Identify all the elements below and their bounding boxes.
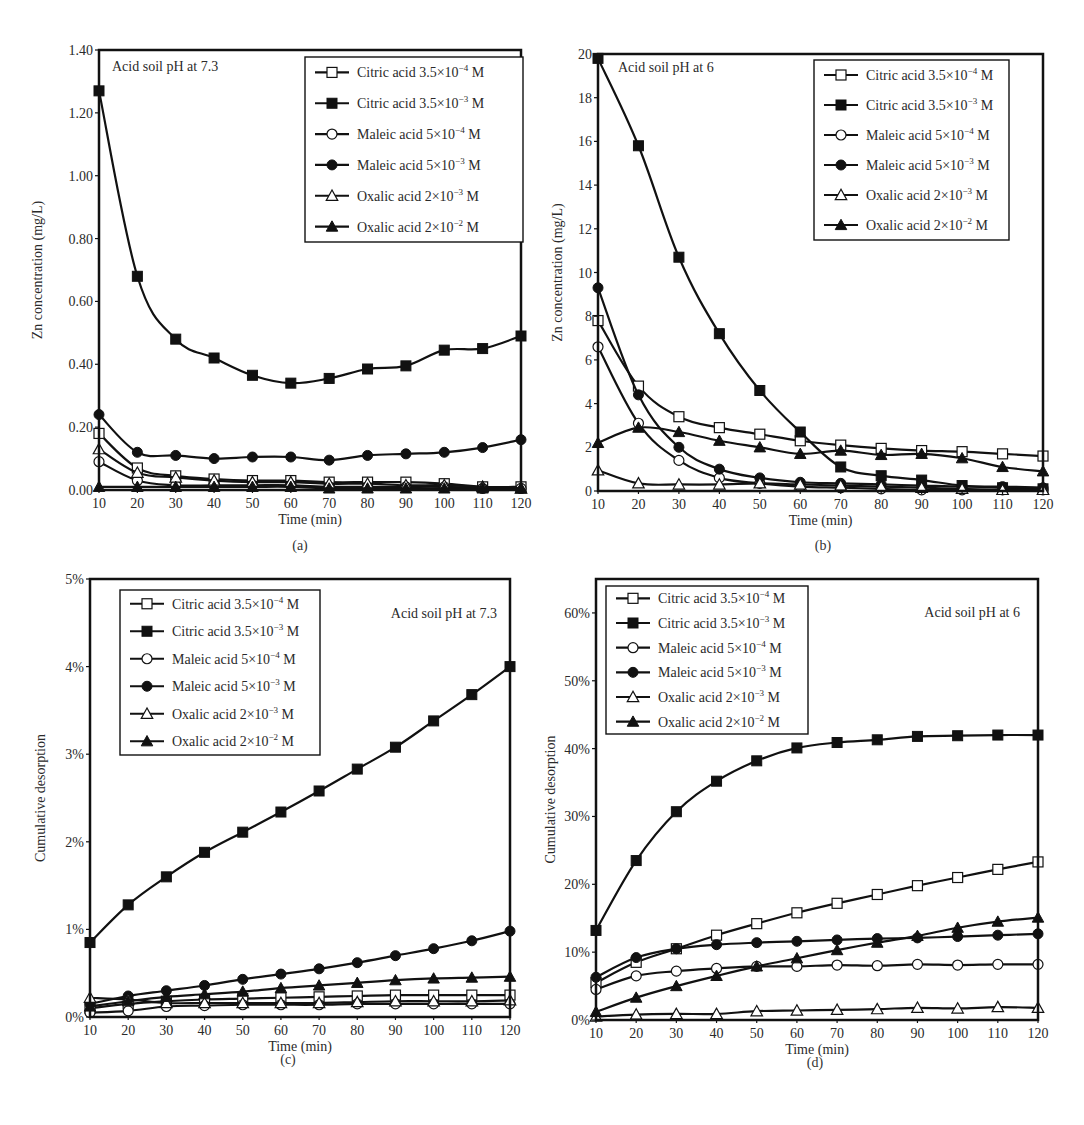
y-tick-label: 1.00 bbox=[69, 169, 94, 184]
x-tick-label: 80 bbox=[874, 497, 888, 512]
series-circle-filled bbox=[591, 929, 1043, 982]
square-filled-marker-icon bbox=[795, 427, 805, 437]
x-tick-label: 120 bbox=[511, 496, 532, 511]
square-filled-marker-icon bbox=[429, 716, 439, 726]
y-axis-title: Cumulative desorption bbox=[33, 734, 48, 862]
circle-filled-marker-icon bbox=[142, 681, 152, 691]
y-tick-label: 2 bbox=[585, 440, 592, 455]
y-tick-label: 40% bbox=[564, 742, 590, 757]
circle-filled-marker-icon bbox=[171, 450, 181, 460]
y-tick-label: 0.80 bbox=[69, 232, 94, 247]
square-filled-marker-icon bbox=[286, 378, 296, 388]
x-tick-label: 30 bbox=[169, 496, 183, 511]
x-tick-label: 40 bbox=[710, 1026, 724, 1041]
x-tick-label: 80 bbox=[870, 1026, 884, 1041]
y-axis-title: Cumulative desorption bbox=[543, 736, 558, 864]
caption-c: (c) bbox=[268, 1052, 308, 1068]
x-tick-label: 30 bbox=[159, 1023, 173, 1038]
y-tick-label: 50% bbox=[564, 674, 590, 689]
square-filled-marker-icon bbox=[953, 731, 963, 741]
y-tick-label: 0.20 bbox=[69, 420, 94, 435]
square-filled-marker-icon bbox=[209, 353, 219, 363]
series-line bbox=[598, 288, 1043, 488]
chart-annotation: Acid soil pH at 7.3 bbox=[391, 606, 497, 621]
x-tick-label: 100 bbox=[952, 497, 973, 512]
y-tick-label: 30% bbox=[564, 809, 590, 824]
x-tick-label: 90 bbox=[388, 1023, 402, 1038]
square-filled-marker-icon bbox=[633, 141, 643, 151]
square-filled-marker-icon bbox=[200, 847, 210, 857]
x-tick-label: 10 bbox=[92, 496, 106, 511]
square-filled-marker-icon bbox=[247, 370, 257, 380]
y-tick-label: 0.40 bbox=[69, 357, 94, 372]
x-tick-label: 20 bbox=[121, 1023, 135, 1038]
series-line bbox=[596, 964, 1038, 989]
series-circle-filled bbox=[94, 410, 526, 466]
chart-panel-a: 0.000.200.400.600.801.001.201.4010203040… bbox=[0, 0, 542, 540]
y-tick-label: 0.60 bbox=[69, 294, 94, 309]
y-tick-label: 20 bbox=[578, 47, 592, 62]
y-tick-label: 4 bbox=[585, 397, 592, 412]
series-line bbox=[598, 347, 1043, 490]
circle-filled-marker-icon bbox=[363, 450, 373, 460]
chart-annotation: Acid soil pH at 6 bbox=[924, 605, 1020, 620]
chart-panel-b: 0246810121416182010203040506070809010011… bbox=[542, 0, 1084, 540]
square-open-marker-icon bbox=[998, 449, 1008, 459]
x-tick-label: 110 bbox=[992, 497, 1012, 512]
x-axis-title: Time (min) bbox=[278, 512, 342, 528]
y-axis-title: Zn concentration (mg/L) bbox=[550, 203, 566, 342]
y-tick-label: 10% bbox=[564, 945, 590, 960]
square-filled-marker-icon bbox=[671, 807, 681, 817]
square-open-marker-icon bbox=[872, 889, 882, 899]
x-tick-label: 70 bbox=[834, 497, 848, 512]
circle-filled-marker-icon bbox=[993, 930, 1003, 940]
series-line bbox=[99, 433, 521, 487]
series-line bbox=[99, 415, 521, 461]
circle-filled-marker-icon bbox=[633, 390, 643, 400]
circle-filled-marker-icon bbox=[714, 464, 724, 474]
y-tick-label: 4% bbox=[65, 660, 84, 675]
x-tick-label: 90 bbox=[910, 1026, 924, 1041]
circle-filled-marker-icon bbox=[674, 442, 684, 452]
x-tick-label: 60 bbox=[284, 496, 298, 511]
x-tick-label: 60 bbox=[793, 497, 807, 512]
circle-open-marker-icon bbox=[674, 455, 684, 465]
circle-filled-marker-icon bbox=[286, 452, 296, 462]
circle-filled-marker-icon bbox=[628, 667, 638, 677]
series-group bbox=[590, 730, 1044, 1021]
legend-box bbox=[120, 590, 320, 755]
x-tick-label: 70 bbox=[322, 496, 336, 511]
y-axis: 0%10%20%30%40%50%60% bbox=[564, 606, 596, 1028]
y-tick-label: 8 bbox=[585, 309, 592, 324]
circle-filled-marker-icon bbox=[836, 160, 846, 170]
circle-filled-marker-icon bbox=[132, 447, 142, 457]
y-tick-label: 6 bbox=[585, 353, 592, 368]
caption-a: (a) bbox=[280, 538, 320, 554]
circle-open-marker-icon bbox=[836, 130, 846, 140]
series-circle-open bbox=[593, 342, 1048, 495]
y-tick-label: 14 bbox=[578, 178, 592, 193]
square-filled-marker-icon bbox=[674, 252, 684, 262]
legend-box bbox=[814, 60, 1009, 240]
x-tick-label: 40 bbox=[712, 497, 726, 512]
caption-d: (d) bbox=[795, 1055, 835, 1071]
chart-a-plot: 0.000.200.400.600.801.001.201.4010203040… bbox=[0, 0, 542, 540]
square-filled-marker-icon bbox=[712, 776, 722, 786]
square-open-marker-icon bbox=[832, 898, 842, 908]
series-line bbox=[596, 735, 1038, 930]
x-tick-label: 40 bbox=[207, 496, 221, 511]
x-tick-label: 60 bbox=[790, 1026, 804, 1041]
square-open-marker-icon bbox=[836, 70, 846, 80]
y-tick-label: 60% bbox=[564, 606, 590, 621]
circle-filled-marker-icon bbox=[478, 443, 488, 453]
square-filled-marker-icon bbox=[132, 271, 142, 281]
series-square-filled bbox=[591, 730, 1043, 935]
chart-panel-c: 0%1%2%3%4%5%102030405060708090100110120T… bbox=[0, 555, 542, 1085]
circle-open-marker-icon bbox=[872, 961, 882, 971]
y-tick-label: 0% bbox=[65, 1010, 84, 1025]
square-filled-marker-icon bbox=[467, 690, 477, 700]
x-tick-label: 120 bbox=[1033, 497, 1054, 512]
square-filled-marker-icon bbox=[161, 872, 171, 882]
x-axis: 102030405060708090100110120 bbox=[591, 491, 1054, 512]
series-line bbox=[596, 934, 1038, 977]
